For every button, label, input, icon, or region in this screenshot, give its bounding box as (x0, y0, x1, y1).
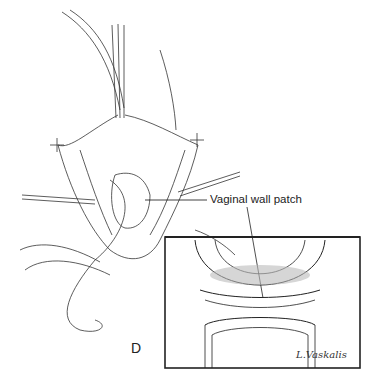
artist-signature: L.Vaskalis (296, 349, 347, 360)
panel-letter: D (131, 340, 141, 356)
cross-section-inset (165, 207, 360, 368)
callout-label: Vaginal wall patch (210, 193, 302, 205)
surgical-illustration (0, 0, 367, 374)
